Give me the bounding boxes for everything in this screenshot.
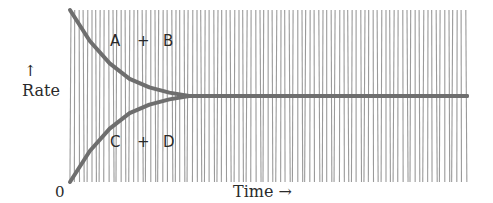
hatch-line — [96, 10, 97, 182]
hatch-line — [83, 10, 84, 182]
series-label-reverse-product-c: C — [110, 133, 120, 151]
hatch-line — [99, 10, 100, 182]
series-label-forward-reactant-a: A — [110, 32, 121, 50]
series-label-forward-reactant-b: B — [163, 32, 173, 50]
origin-label: 0 — [55, 183, 65, 201]
hatch-line — [155, 10, 156, 182]
hatch-line — [175, 10, 176, 182]
rate-vs-time-chart: A + B C + D ↑ Rate 0 Time → — [0, 0, 493, 203]
hatch-line — [158, 10, 159, 182]
series-label-reverse-plus: + — [137, 133, 150, 151]
y-axis-label: Rate — [22, 81, 60, 100]
hatch-line — [129, 10, 130, 182]
x-axis-label: Time → — [233, 182, 292, 201]
hatch-line — [125, 10, 126, 182]
hatch-line — [70, 10, 71, 182]
series-label-reverse-product-d: D — [163, 133, 175, 151]
y-axis-arrow: ↑ — [24, 62, 37, 80]
series-label-forward-plus: + — [137, 32, 150, 50]
